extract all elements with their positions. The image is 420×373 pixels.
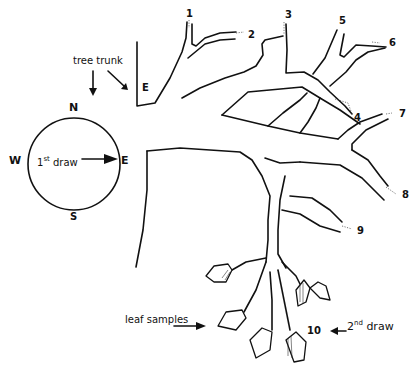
branch-7-tip	[386, 113, 392, 114]
tip-10: 10	[307, 326, 321, 336]
branch-9-tip	[342, 226, 352, 229]
tree-trunk-arrow-down-head	[89, 88, 97, 96]
compass-east: E	[121, 155, 129, 166]
branch-2-lower	[188, 39, 235, 58]
leaf-sample-4	[310, 282, 330, 300]
leaf-samples-label: leaf samples	[125, 315, 188, 325]
cross-limb-c	[300, 98, 320, 133]
tip-6: 6	[389, 38, 396, 48]
leaf-sample-1	[206, 264, 232, 282]
branch-2-tip	[236, 32, 244, 33]
branch-drawing	[0, 0, 420, 373]
first-draw-word: draw	[53, 157, 78, 168]
lower-trunk-left-edge	[136, 151, 147, 267]
leaf-sample-6	[286, 332, 306, 362]
lower-trunk	[147, 148, 270, 262]
second-draw-word: draw	[366, 320, 393, 333]
branch-8-tip	[386, 187, 396, 194]
tree-trunk-upper-inner	[192, 24, 236, 46]
twig-right	[282, 262, 300, 284]
compass-north: N	[69, 102, 78, 113]
second-draw-label: 2nd draw	[347, 320, 394, 332]
leaf-sample-2	[218, 310, 246, 330]
first-draw-label: 1st draw	[37, 156, 78, 168]
compass-south: S	[70, 212, 77, 222]
trunk-east-marker: E	[142, 83, 149, 93]
tip-7: 7	[399, 109, 406, 119]
tip-3: 3	[285, 10, 292, 20]
branch-6-lower	[330, 48, 385, 86]
second-draw-arrow-head	[330, 327, 338, 335]
tip-9: 9	[357, 226, 364, 236]
tip-8: 8	[402, 190, 409, 200]
tip-5: 5	[339, 16, 346, 26]
branch-6-tip	[372, 42, 380, 43]
first-draw-arrow-head	[104, 154, 118, 164]
tree-trunk-upper	[137, 22, 187, 106]
diagram-canvas: tree trunk E N S W E 1st draw leaf sampl…	[0, 0, 420, 373]
branch-8-upper	[352, 150, 388, 186]
cross-limb-b	[268, 93, 307, 126]
twig-left-leaf	[232, 258, 266, 270]
compass-west: W	[9, 155, 21, 166]
first-draw-sup: st	[43, 155, 49, 163]
cross-limb-a	[222, 115, 338, 139]
branch-9-upper	[290, 196, 342, 222]
branch-9-lower	[282, 210, 340, 232]
lower-trunk-right-edge	[265, 158, 300, 163]
leaf-sample-5	[250, 328, 272, 358]
trunk-down	[278, 176, 286, 268]
tree-trunk-arrow-diag	[108, 71, 124, 86]
twig-mid-left	[270, 272, 272, 330]
tip-1: 1	[186, 9, 193, 19]
branch-8-lower	[300, 162, 384, 200]
branch-5-left	[313, 30, 337, 74]
second-draw-sup: nd	[354, 319, 363, 327]
tree-trunk-label: tree trunk	[73, 56, 123, 66]
leaf-samples-arrow-head	[196, 322, 206, 330]
tip-4: 4	[354, 113, 361, 123]
tip-2: 2	[248, 30, 255, 40]
twig-mid-right	[278, 270, 290, 330]
branch-5-right	[340, 34, 386, 57]
second-draw-num: 2	[347, 320, 354, 333]
upper-limb-bottom	[222, 87, 360, 124]
twig-left-down	[244, 262, 266, 312]
